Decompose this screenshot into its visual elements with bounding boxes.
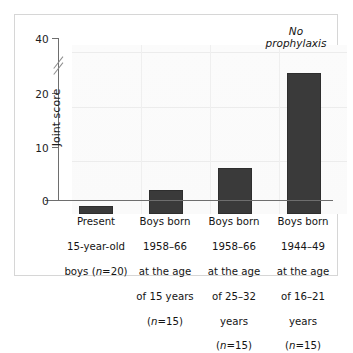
cat2-line1: Boys born bbox=[140, 216, 191, 227]
y-tick-label-20: 20 bbox=[9, 88, 49, 100]
category-separator-3 bbox=[279, 45, 280, 214]
y-tick-label-10: 10 bbox=[9, 142, 49, 154]
cat2-line3: at the age bbox=[139, 266, 191, 277]
cat1-line3-pre: boys ( bbox=[64, 266, 95, 277]
category-separator-2 bbox=[210, 45, 211, 214]
y-tick-label-0: 0 bbox=[9, 195, 49, 207]
x-category-label-3: Boys born 1958–66 at the age of 25–32 ye… bbox=[198, 204, 270, 353]
cat3-line5: years bbox=[220, 316, 248, 327]
cat4-line3: at the age bbox=[277, 266, 329, 277]
cat4-line1: Boys born bbox=[278, 216, 329, 227]
y-axis-title: Joint score bbox=[50, 58, 63, 178]
y-tick-mark-40 bbox=[52, 38, 59, 39]
cat2-line4: of 15 years bbox=[136, 291, 193, 302]
annotation-line-1: No bbox=[289, 25, 303, 37]
cat1-line1: Present bbox=[77, 216, 115, 227]
category-separator-1 bbox=[141, 45, 142, 214]
cat3-line6-post: =15) bbox=[226, 340, 251, 351]
y-tick-label-40: 40 bbox=[9, 33, 49, 45]
plot-area bbox=[72, 45, 347, 214]
x-category-label-2: Boys born 1958–66 at the age of 15 years… bbox=[129, 204, 201, 328]
cat1-line2: 15-year-old bbox=[67, 241, 125, 252]
cat4-line5: years bbox=[289, 316, 317, 327]
chart-frame: 40 20 10 0 Joint score No prophylaxis Pr… bbox=[14, 14, 338, 276]
cat4-line4: of 16–21 bbox=[281, 291, 325, 302]
cat2-line5-post: =15) bbox=[157, 316, 182, 327]
x-axis-line bbox=[45, 200, 333, 201]
cat3-line3: at the age bbox=[208, 266, 260, 277]
x-category-label-1: Present 15-year-old boys (n=20) bbox=[60, 204, 132, 278]
y-tick-mark-0 bbox=[52, 200, 59, 201]
annotation-line-2: prophylaxis bbox=[266, 37, 327, 49]
cat4-line6-post: =15) bbox=[295, 340, 320, 351]
cat2-line2: 1958–66 bbox=[143, 241, 187, 252]
bar-boys-1944-49-age-16-21[interactable] bbox=[287, 73, 321, 214]
cat3-line4: of 25–32 bbox=[212, 291, 256, 302]
cat3-line2: 1958–66 bbox=[212, 241, 256, 252]
cat3-line1: Boys born bbox=[209, 216, 260, 227]
cat4-line2: 1944–49 bbox=[281, 241, 325, 252]
cat1-line3-post: =20) bbox=[102, 266, 127, 277]
x-category-label-4: Boys born 1944–49 at the age of 16–21 ye… bbox=[267, 204, 339, 353]
annotation-no-prophylaxis: No prophylaxis bbox=[253, 25, 339, 50]
